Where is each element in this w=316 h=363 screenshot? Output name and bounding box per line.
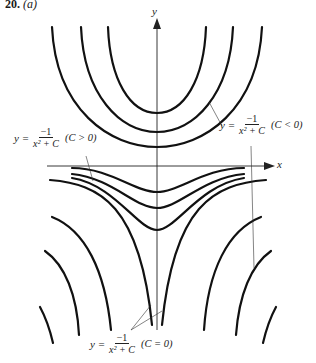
annotation-c-negative: y = −1 x² + C (C < 0) [220, 113, 303, 136]
fraction: −1 x² + C [107, 332, 137, 355]
leader-c-negative-lower [251, 146, 254, 268]
curve-side-left-2 [45, 251, 79, 335]
curve-side-left-3 [40, 307, 53, 343]
fraction-numerator: −1 [115, 332, 130, 344]
x-axis-arrow-icon [264, 162, 275, 170]
fraction-denominator: x² + C [107, 344, 137, 355]
x-axis-label: x [277, 158, 282, 170]
annotation-lhs: y = [90, 338, 105, 350]
curve-side-right-2 [236, 251, 271, 335]
fraction-numerator: −1 [39, 126, 54, 138]
annotation-condition: (C < 0) [271, 119, 303, 130]
y-axis-label: y [152, 5, 157, 17]
curve-side-left-1 [52, 217, 111, 330]
annotation-condition: (C > 0) [65, 132, 97, 143]
curve-side-right-3 [263, 307, 276, 343]
fraction: −1 x² + C [237, 113, 267, 136]
leader-c-zero-left [131, 305, 151, 330]
curve-c-positive-3 [72, 178, 244, 230]
fraction: −1 x² + C [31, 126, 61, 149]
annotation-lhs: y = [220, 119, 235, 131]
annotation-c-zero: y = −1 x² + C (C = 0) [90, 332, 173, 355]
chart-plot [0, 0, 316, 363]
fraction-denominator: x² + C [237, 125, 267, 136]
y-axis-arrow-icon [153, 18, 161, 29]
annotation-lhs: y = [14, 132, 29, 144]
fraction-denominator: x² + C [31, 138, 61, 149]
fraction-numerator: −1 [245, 113, 260, 125]
annotation-c-positive: y = −1 x² + C (C > 0) [14, 126, 97, 149]
annotation-condition: (C = 0) [141, 338, 173, 349]
